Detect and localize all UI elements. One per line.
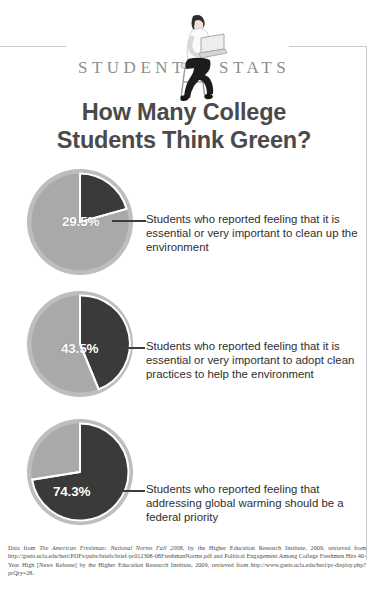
- page-title: How Many College Students Think Green?: [0, 98, 368, 154]
- pie-description-2: Students who reported feeling that it is…: [146, 339, 362, 382]
- pie-description-3: Students who reported feeling that addre…: [146, 482, 362, 525]
- pie-chart-global-warming-priority: [26, 418, 134, 526]
- header: STUDENT STATS: [0, 26, 385, 86]
- pie-description-1: Students who reported feeling that it is…: [146, 212, 362, 255]
- student-with-laptop-icon: [168, 12, 232, 104]
- pie-value-label-3: 74.3%: [53, 484, 90, 499]
- page-title-line-2: Students Think Green?: [0, 126, 368, 154]
- source-citation: Data from The American Freshman: Nationa…: [8, 544, 366, 577]
- citation-source-title: The American Freshman: National Norms Fa…: [39, 544, 182, 551]
- pie-value-label-2: 43.5%: [61, 341, 98, 356]
- leader-line-1: [112, 220, 146, 222]
- leader-line-2: [113, 347, 145, 349]
- leader-line-3: [107, 490, 145, 492]
- page-title-line-1: How Many College: [0, 98, 368, 126]
- citation-prefix: Data from: [8, 544, 39, 551]
- pie-value-label-1: 29.5%: [62, 214, 99, 229]
